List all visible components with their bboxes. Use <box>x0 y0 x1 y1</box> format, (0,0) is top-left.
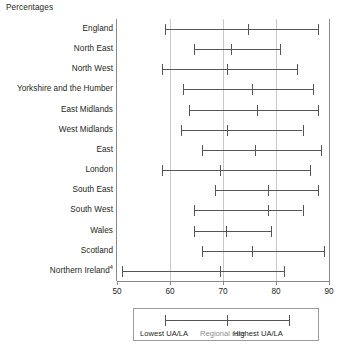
low-cap <box>162 64 163 75</box>
range-line <box>194 49 280 50</box>
chart-row: Wales <box>0 221 349 241</box>
low-cap <box>194 44 195 55</box>
row-label: London <box>85 165 113 175</box>
range-line <box>165 29 319 30</box>
low-cap <box>194 226 195 237</box>
range-line <box>202 150 321 151</box>
range-line <box>162 69 297 70</box>
range-chart: Percentages EnglandNorth EastNorth WestY… <box>0 0 349 347</box>
high-cap <box>280 44 281 55</box>
low-cap <box>215 185 216 196</box>
row-label: East <box>96 145 113 155</box>
low-cap <box>183 84 184 95</box>
low-cap <box>181 125 182 136</box>
units-label: Percentages <box>6 3 53 12</box>
x-tick-90 <box>329 281 330 285</box>
low-cap <box>202 246 203 257</box>
x-tick-label-70: 70 <box>218 287 227 296</box>
high-cap <box>297 64 298 75</box>
range-line <box>162 170 310 171</box>
x-tick-70 <box>223 281 224 285</box>
x-tick-60 <box>170 281 171 285</box>
low-cap <box>189 105 190 116</box>
range-line <box>194 231 271 232</box>
row-label-footnote: 4 <box>110 264 113 270</box>
chart-row: East <box>0 140 349 160</box>
chart-row: Northern Ireland4 <box>0 261 349 281</box>
mid-tick <box>252 246 253 257</box>
row-label: South East <box>72 185 113 195</box>
row-label: North East <box>74 44 113 54</box>
row-label: West Midlands <box>59 125 113 135</box>
low-cap <box>202 145 203 156</box>
mid-tick <box>268 205 269 216</box>
range-line <box>189 110 319 111</box>
row-label: England <box>83 24 113 34</box>
row-label: Northern Ireland4 <box>50 266 113 276</box>
chart-row: South West <box>0 200 349 220</box>
mid-tick <box>268 185 269 196</box>
row-label: Yorkshire and the Humber <box>17 84 113 94</box>
range-line <box>215 190 318 191</box>
high-cap <box>303 205 304 216</box>
high-cap <box>303 125 304 136</box>
legend-lowest-cap <box>165 315 166 326</box>
x-tick-label-50: 50 <box>112 287 121 296</box>
legend-lowest-label: Lowest UA/LA <box>140 329 188 338</box>
mid-tick <box>257 105 258 116</box>
row-label: South West <box>70 205 113 215</box>
chart-row: North West <box>0 59 349 79</box>
high-cap <box>318 185 319 196</box>
low-cap <box>165 24 166 35</box>
x-tick-label-80: 80 <box>271 287 280 296</box>
mid-tick <box>227 64 228 75</box>
chart-row: East Midlands <box>0 100 349 120</box>
row-label: East Midlands <box>61 105 113 115</box>
range-line <box>202 251 324 252</box>
mid-tick <box>227 125 228 136</box>
mid-tick <box>231 44 232 55</box>
legend: Lowest UA/LA Regional rate Highest UA/LA <box>133 308 319 341</box>
high-cap <box>324 246 325 257</box>
row-label: Wales <box>90 226 113 236</box>
mid-tick <box>255 145 256 156</box>
mid-tick <box>248 24 249 35</box>
high-cap <box>271 226 272 237</box>
row-label: North West <box>72 64 113 74</box>
x-tick-50 <box>117 281 118 285</box>
legend-mid-cap <box>227 315 228 326</box>
low-cap <box>162 165 163 176</box>
high-cap <box>318 24 319 35</box>
chart-row: London <box>0 160 349 180</box>
chart-row: South East <box>0 180 349 200</box>
legend-highest-label: Highest UA/LA <box>233 329 283 338</box>
high-cap <box>313 84 314 95</box>
chart-row: Scotland <box>0 241 349 261</box>
mid-tick <box>220 165 221 176</box>
legend-highest-cap <box>289 315 290 326</box>
high-cap <box>284 266 285 277</box>
x-tick-label-90: 90 <box>324 287 333 296</box>
high-cap <box>318 105 319 116</box>
x-tick-label-60: 60 <box>165 287 174 296</box>
range-line <box>122 271 284 272</box>
row-label: Scotland <box>81 246 113 256</box>
low-cap <box>122 266 123 277</box>
chart-row: West Midlands <box>0 120 349 140</box>
range-line <box>183 89 313 90</box>
mid-tick <box>226 226 227 237</box>
chart-row: Yorkshire and the Humber <box>0 79 349 99</box>
high-cap <box>321 145 322 156</box>
x-tick-80 <box>276 281 277 285</box>
chart-row: England <box>0 19 349 39</box>
chart-row: North East <box>0 39 349 59</box>
mid-tick <box>220 266 221 277</box>
low-cap <box>194 205 195 216</box>
range-line <box>194 210 303 211</box>
range-line <box>181 130 303 131</box>
mid-tick <box>252 84 253 95</box>
high-cap <box>310 165 311 176</box>
